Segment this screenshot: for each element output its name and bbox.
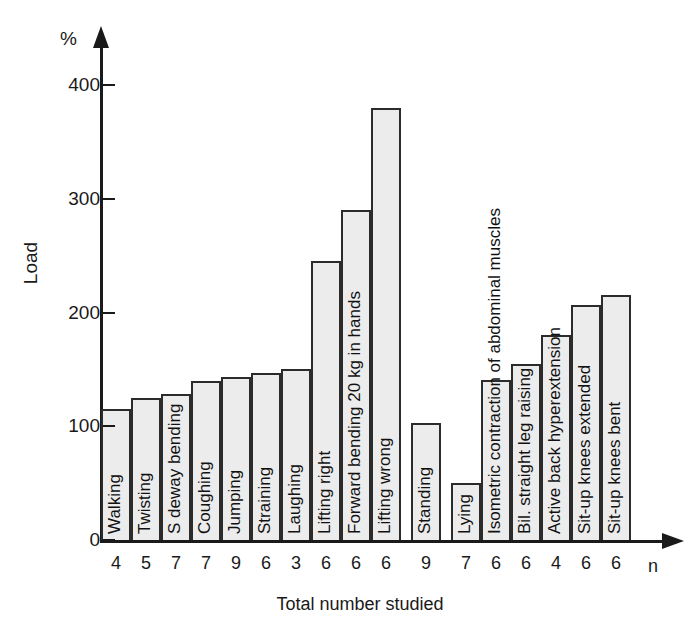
bar: Sit-up knees extended <box>571 305 601 540</box>
bar: Lifting wrong <box>371 108 401 540</box>
bar: Sit-up knees bent <box>601 295 631 540</box>
bar-sample-size-label: 4 <box>541 553 571 574</box>
bar-category-label: Twisting <box>136 473 153 534</box>
bar-category-label: Active back hyperextension <box>546 327 563 534</box>
bar-category-label: Walking <box>106 474 123 534</box>
bar: Straining <box>251 373 281 540</box>
bar-sample-size-label: 9 <box>221 553 251 574</box>
bar-sample-size-label: 6 <box>311 553 341 574</box>
bar-category-label: Lying <box>456 494 473 534</box>
bar-sample-size-label: 3 <box>281 553 311 574</box>
bar: Standing <box>411 423 441 540</box>
bar-sample-size-label: 6 <box>571 553 601 574</box>
bar-category-label: Bil. straight leg raising <box>516 368 533 534</box>
bar-chart-figure: % Load n Total number studied Walking4Tw… <box>0 0 697 628</box>
bar: Lifting right <box>311 261 341 540</box>
y-axis-tick-label: 200 <box>38 302 100 324</box>
bar-sample-size-label: 6 <box>601 553 631 574</box>
bar: S deway bending <box>161 394 191 540</box>
bar-category-label: Laughing <box>286 464 303 534</box>
bar-sample-size-label: 6 <box>341 553 371 574</box>
bar-category-label: Straining <box>256 467 273 534</box>
bar: Isometric contraction of abdominal muscl… <box>481 380 511 540</box>
bar-category-label: Coughing <box>196 461 213 534</box>
y-axis-tick-label: 100 <box>38 415 100 437</box>
bar-sample-size-label: 7 <box>191 553 221 574</box>
bar-sample-size-label: 4 <box>101 553 131 574</box>
bar-sample-size-label: 6 <box>251 553 281 574</box>
bar: Jumping <box>221 377 251 540</box>
bar: Coughing <box>191 381 221 540</box>
bar-category-label: S deway bending <box>166 404 183 534</box>
bar-sample-size-label: 6 <box>481 553 511 574</box>
y-axis-tick-label: 400 <box>38 74 100 96</box>
bar-category-label: Jumping <box>226 470 243 534</box>
bar-category-label: Isometric contraction of abdominal muscl… <box>486 208 503 534</box>
y-axis-tick-label: 0 <box>38 529 100 551</box>
bar-sample-size-label: 7 <box>451 553 481 574</box>
bar-category-label: Lifting wrong <box>376 438 393 534</box>
bar-sample-size-label: 6 <box>371 553 401 574</box>
bar: Bil. straight leg raising <box>511 364 541 540</box>
y-axis-tick <box>103 425 115 427</box>
bar: Lying <box>451 483 481 540</box>
bar-category-label: Sit-up knees extended <box>576 365 593 534</box>
bar-sample-size-label: 9 <box>411 553 441 574</box>
bar-category-label: Standing <box>416 467 433 534</box>
bar: Forward bending 20 kg in hands <box>341 210 371 540</box>
bar: Walking <box>101 409 131 540</box>
bar-sample-size-label: 7 <box>161 553 191 574</box>
y-axis-tick-label: 300 <box>38 188 100 210</box>
y-axis-tick <box>103 198 115 200</box>
bar: Active back hyperextension <box>541 335 571 540</box>
bar: Laughing <box>281 369 311 540</box>
bar-category-label: Lifting right <box>316 451 333 534</box>
plot-area: Walking4Twisting5S deway bending7Coughin… <box>0 0 697 628</box>
y-axis-tick <box>103 312 115 314</box>
bar-category-label: Sit-up knees bent <box>606 402 623 534</box>
bar: Twisting <box>131 398 161 540</box>
bar-sample-size-label: 6 <box>511 553 541 574</box>
y-axis-tick <box>103 84 115 86</box>
bar-sample-size-label: 5 <box>131 553 161 574</box>
bar-category-label: Forward bending 20 kg in hands <box>346 291 363 534</box>
y-axis-tick <box>103 539 115 541</box>
